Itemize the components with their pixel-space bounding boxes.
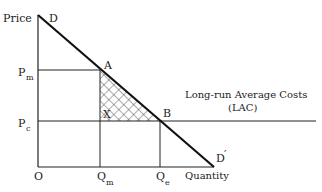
lac-label-line2: (LAC) [228,102,257,113]
qe-label: Q [156,170,165,183]
point-a-label: A [103,59,113,72]
x-axis-label: Quantity [185,170,229,181]
lac-label-line1: Long-run Average Costs [185,89,307,100]
y-axis-label: Price [3,12,32,25]
point-x-label: X [103,108,111,121]
economics-diagram: Price D P m P c A B X Long-run Average C… [0,0,322,192]
qm-subscript: m [106,178,114,187]
qm-label: Q [97,170,106,183]
qe-subscript: e [165,178,170,187]
pc-subscript: c [26,124,31,133]
pc-label: P [18,117,26,130]
pm-subscript: m [26,73,34,82]
pm-label: P [18,66,26,79]
demand-end-prime: ′ [224,148,227,161]
demand-start-label: D [49,12,58,25]
point-b-label: B [163,107,171,120]
origin-label: O [34,170,43,183]
